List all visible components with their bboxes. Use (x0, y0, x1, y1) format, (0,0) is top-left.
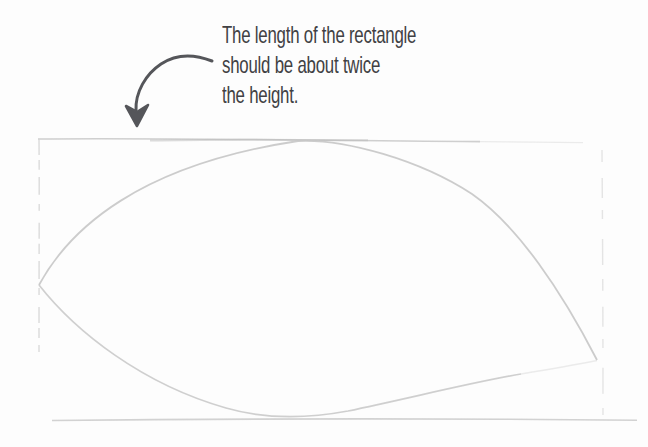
rectangle-top-edge-faint (480, 142, 583, 143)
rectangle-bottom-edge (52, 419, 637, 421)
eye-lower-curve (39, 285, 521, 417)
pencil-sketch-canvas (0, 0, 648, 447)
eye-lower-curve-faint (521, 361, 597, 375)
drawing-lesson-figure: The length of the rectangle should be ab… (0, 0, 648, 447)
pencil-eye-curve (39, 141, 597, 417)
curved-arrow-icon (126, 56, 212, 126)
pencil-rectangle (38, 139, 637, 421)
rectangle-top-edge-overstroke (150, 140, 368, 141)
arrow-shaft (136, 56, 212, 111)
rectangle-right-edge (602, 150, 603, 415)
eye-upper-curve (39, 141, 597, 360)
